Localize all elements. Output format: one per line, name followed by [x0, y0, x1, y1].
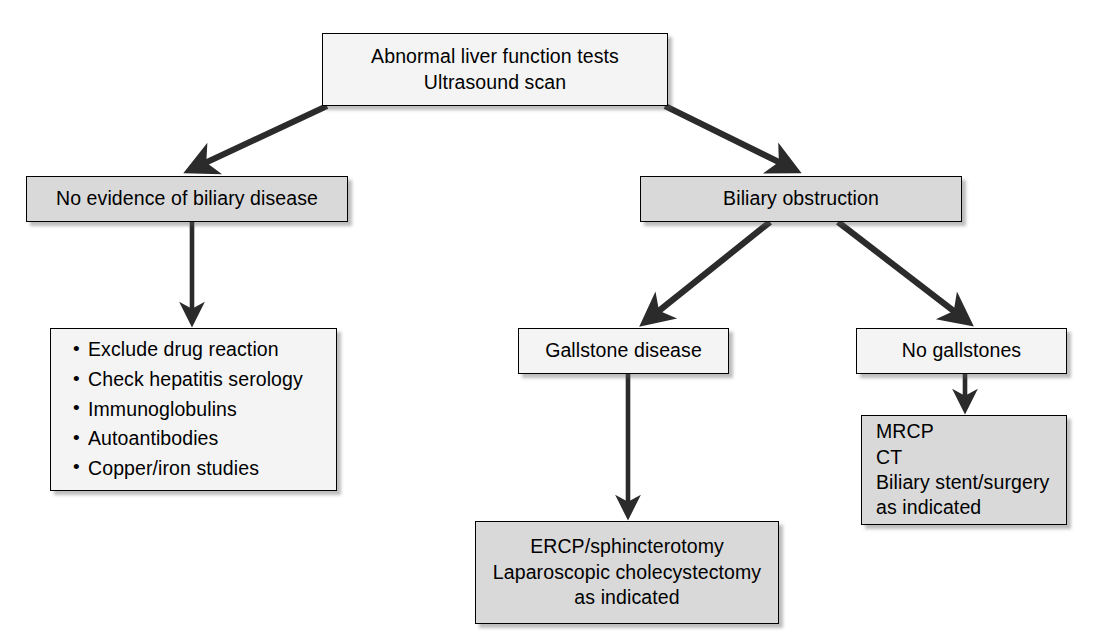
node-no-gallstones[interactable]: No gallstones [856, 328, 1067, 374]
node-line: as indicated [574, 585, 679, 610]
node-line: Abnormal liver function tests [371, 44, 619, 69]
node-line: Biliary obstruction [723, 186, 879, 211]
edge-biliary-to-no-gallstones [838, 222, 968, 322]
node-line: as indicated [862, 495, 981, 520]
node-gallstone-disease[interactable]: Gallstone disease [518, 328, 729, 374]
list-item: Check hepatitis serology [73, 365, 303, 395]
node-biliary-obstruction[interactable]: Biliary obstruction [640, 176, 962, 222]
node-line: No gallstones [902, 338, 1021, 363]
node-line: MRCP [862, 419, 934, 444]
node-line: CT [862, 445, 902, 470]
node-non-biliary-workup[interactable]: Exclude drug reaction Check hepatitis se… [50, 328, 337, 491]
node-line: ERCP/sphincterotomy [530, 534, 724, 559]
list-item: Copper/iron studies [73, 454, 303, 484]
list-item: Autoantibodies [73, 424, 303, 454]
node-line: Laparoscopic cholecystectomy [493, 560, 761, 585]
edge-top-to-no-evidence [190, 106, 327, 170]
list-item: Immunoglobulins [73, 395, 303, 425]
edge-biliary-to-gallstone [645, 222, 770, 322]
node-abnormal-liver-function-tests[interactable]: Abnormal liver function tests Ultrasound… [322, 33, 668, 106]
node-line: Biliary stent/surgery [862, 470, 1049, 495]
workup-bullet-list: Exclude drug reaction Check hepatitis se… [51, 335, 303, 483]
node-mrcp-ct-biliary-stent[interactable]: MRCP CT Biliary stent/surgery as indicat… [861, 415, 1067, 525]
node-line: No evidence of biliary disease [56, 186, 318, 211]
node-line: Ultrasound scan [424, 70, 566, 95]
node-line: Gallstone disease [545, 338, 702, 363]
node-no-evidence-of-biliary-disease[interactable]: No evidence of biliary disease [26, 176, 348, 222]
flowchart-canvas: Abnormal liver function tests Ultrasound… [0, 0, 1102, 637]
edge-top-to-biliary-obstruction [665, 106, 795, 170]
list-item: Exclude drug reaction [73, 335, 303, 365]
node-ercp-sphincterotomy[interactable]: ERCP/sphincterotomy Laparoscopic cholecy… [475, 521, 779, 624]
